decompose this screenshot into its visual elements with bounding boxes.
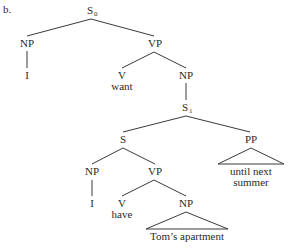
node-inner-object-np: NP — [179, 197, 193, 209]
edge-inner-vp-v — [122, 180, 154, 196]
edge-s0-np — [27, 19, 91, 36]
edge-s1-pp — [186, 116, 250, 132]
syntax-tree: b. S 0 NP I VP V want NP S 1 S PP until … — [0, 0, 289, 248]
node-subject-np: NP — [20, 37, 34, 49]
edge-s1-s — [123, 116, 186, 132]
words-toms-apartment: Tom’s apartment — [150, 230, 224, 242]
node-pp: PP — [245, 133, 257, 145]
triangle-pp — [218, 148, 284, 164]
node-inner-vp: VP — [148, 165, 162, 177]
edge-vp-np — [154, 52, 186, 68]
edge-s-vp — [123, 148, 155, 164]
edge-s0-vp — [91, 19, 154, 36]
edge-inner-vp-np — [154, 180, 186, 196]
node-s0: S 0 — [87, 4, 98, 18]
node-s0-subscript: 0 — [94, 10, 98, 18]
node-main-vp: VP — [148, 37, 162, 49]
example-label: b. — [3, 3, 12, 15]
word-inner-i: I — [90, 197, 94, 209]
edge-vp-v — [122, 52, 154, 68]
node-inner-np: NP — [85, 165, 99, 177]
word-have: have — [112, 208, 133, 220]
node-object-np: NP — [179, 69, 193, 81]
triangle-inner-object-np — [146, 212, 228, 229]
node-s1-label: S — [182, 101, 188, 113]
word-want: want — [111, 80, 132, 92]
pp-words-line2: summer — [233, 176, 269, 188]
edge-s-np — [92, 148, 123, 164]
node-inner-s: S — [120, 133, 126, 145]
word-i: I — [25, 69, 29, 81]
node-s0-label: S — [87, 4, 93, 16]
node-s1: S 1 — [182, 101, 193, 115]
node-s1-subscript: 1 — [189, 107, 193, 115]
